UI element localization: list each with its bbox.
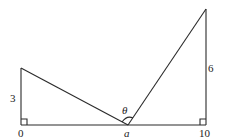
theta-label: θ <box>122 104 128 116</box>
left-height-label: 3 <box>10 92 16 104</box>
right-angle-marker-right <box>200 119 206 125</box>
end-label: 10 <box>199 127 211 139</box>
diagram-canvas: 3 6 0 10 a θ <box>0 0 227 140</box>
point-a-label: a <box>124 127 130 139</box>
right-hypotenuse <box>128 9 206 125</box>
right-height-label: 6 <box>208 62 214 74</box>
left-hypotenuse <box>21 68 128 125</box>
origin-label: 0 <box>18 127 24 139</box>
right-angle-marker-left <box>21 119 27 125</box>
